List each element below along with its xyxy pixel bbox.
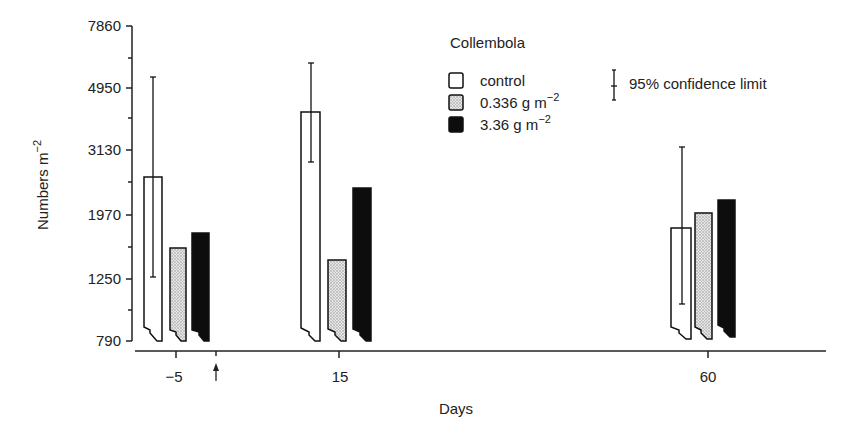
legend: Collembola control 0.336 g m−2 3.36 g m−… [449, 34, 767, 133]
y-tick-1250: 1250 [88, 270, 121, 287]
x-tick-15: 15 [332, 368, 349, 385]
confidence-limit-label: 95% confidence limit [629, 75, 767, 92]
y-tick-4950: 4950 [88, 79, 121, 96]
legend-title: Collembola [450, 34, 526, 51]
bar-group-day-60 [671, 147, 735, 339]
y-axis-title: Numbers m−2 [31, 140, 51, 230]
y-tick-labels: 7860 4950 3130 1970 1250 790 [88, 17, 121, 349]
bar-group-day-15 [301, 63, 371, 341]
confidence-limit-icon [611, 70, 617, 100]
x-axis-title: Days [439, 400, 473, 417]
y-tick-1970: 1970 [88, 206, 121, 223]
bar-low-day-minus5 [170, 248, 186, 341]
y-tick-3130: 3130 [88, 141, 121, 158]
svg-text:Numbers m−2: Numbers m−2 [31, 140, 51, 230]
x-tick-60: 60 [700, 368, 717, 385]
legend-label-high: 3.36 g m−2 [480, 113, 551, 133]
bar-low-day-15 [328, 260, 346, 341]
y-axis [126, 26, 132, 341]
bar-high-day-60 [718, 200, 735, 337]
legend-swatch-low [449, 95, 463, 110]
y-tick-790: 790 [96, 332, 121, 349]
x-tick-minus5: −5 [165, 368, 182, 385]
bar-group-day-minus5 [144, 77, 209, 341]
bar-high-day-minus5 [192, 233, 209, 341]
chart: 7860 4950 3130 1970 1250 790 Numbers m−2… [0, 0, 847, 443]
legend-swatch-control [449, 73, 463, 88]
y-tick-7860: 7860 [88, 17, 121, 34]
bar-control-day-60 [671, 228, 691, 339]
legend-label-low: 0.336 g m−2 [480, 91, 559, 111]
legend-label-control: control [480, 72, 525, 89]
treatment-arrow-icon [213, 363, 219, 381]
x-axis [135, 351, 826, 358]
bar-high-day-15 [353, 188, 371, 341]
legend-swatch-high [449, 117, 463, 132]
x-tick-labels: −5 15 60 [165, 368, 716, 385]
bar-low-day-60 [695, 213, 712, 339]
